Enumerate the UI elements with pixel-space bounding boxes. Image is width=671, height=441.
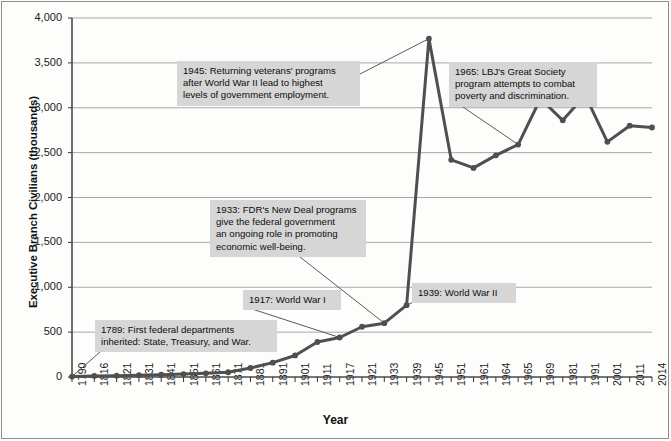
annotation-ann-1965: 1965: LBJ's Great Society program attemp… xyxy=(449,62,597,107)
annotation-ann-1917: 1917: World War I xyxy=(243,290,341,310)
annotation-ann-1945: 1945: Returning veterans' programs after… xyxy=(177,61,360,106)
annotation-ann-1939: 1939: World War II xyxy=(412,283,516,303)
chart-figure: Executive Branch Civilians (thousands) Y… xyxy=(0,0,671,441)
annotation-ann-1789: 1789: First federal departments inherite… xyxy=(95,320,277,352)
annotation-ann-1933: 1933: FDR's New Deal programs give the f… xyxy=(210,200,366,257)
